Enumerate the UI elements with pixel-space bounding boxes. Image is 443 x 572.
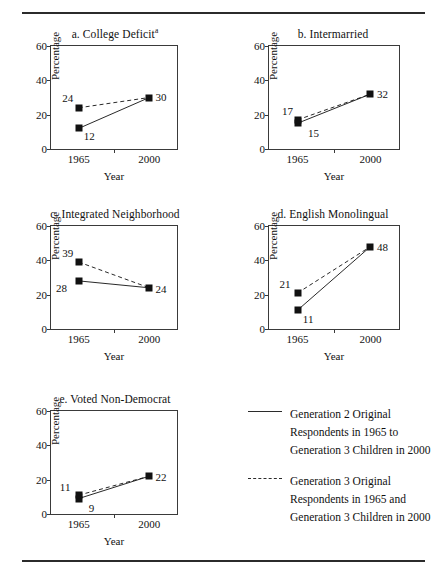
panel-a-datalabel-12: 12: [84, 131, 95, 142]
panel-c-ytick-40: 40: [36, 255, 47, 266]
panel-e-xtick-1965: 1965: [68, 519, 90, 530]
panel-d-xtick-1965: 1965: [287, 334, 309, 345]
panel-a-x-axis-label: Year: [51, 170, 177, 182]
panel-e-title-text: e. Voted Non-Democrat: [59, 393, 170, 405]
panel-b-datalabel-17: 17: [282, 106, 293, 117]
panel-a-ytick-40: 40: [36, 75, 47, 86]
panel-b-title: b. Intermarried: [228, 26, 438, 40]
chart-legend: Generation 2 Original Respondents in 196…: [248, 404, 438, 538]
panel-e-xtick-2000: 2000: [138, 519, 160, 530]
panel-d-x-axis-label: Year: [269, 350, 399, 362]
legend-entry-generation-2-label: Generation 2 Original Respondents in 196…: [290, 408, 431, 456]
panel-d-ytick-60: 60: [254, 221, 265, 232]
panel-b-ytick-40: 40: [254, 75, 265, 86]
panel-c-plot-area: Percentage 0 20 40 60 1965 2000 Year 39 …: [50, 225, 178, 330]
panel-b-x-axis-label: Year: [269, 170, 399, 182]
panel-e-title: e. Voted Non-Democrat: [10, 391, 220, 405]
panel-college-deficit: a. College Deficita Percentage 0 20 40 6…: [10, 26, 220, 196]
panel-b-plot-area: Percentage 0 20 40 60 1965 2000 Year 17 …: [268, 45, 400, 150]
panel-a-title: a. College Deficita: [10, 26, 220, 40]
panel-a-marker-1965-solid: [75, 125, 82, 132]
panel-d-marker-1965-solid: [294, 307, 301, 314]
panel-b-ytick-20: 20: [254, 109, 265, 120]
panel-c-title-text: c. Integrated Neighborhood: [50, 208, 179, 220]
panel-integrated-neighborhood: c. Integrated Neighborhood Percentage 0 …: [10, 206, 220, 376]
panel-c-title: c. Integrated Neighborhood: [10, 206, 220, 220]
legend-entry-generation-2: Generation 2 Original Respondents in 196…: [248, 404, 438, 458]
panel-d-title-text: d. English Monolingual: [277, 208, 388, 220]
panel-a-ytick-20: 20: [36, 109, 47, 120]
panel-b-marker-1965-dashed: [294, 116, 301, 123]
panel-b-title-text: b. Intermarried: [298, 28, 368, 40]
panel-e-plot-area: Percentage 0 20 40 60 1965 2000 Year 11 …: [50, 410, 178, 515]
panel-english-monolingual: d. English Monolingual Percentage 0 20 4…: [228, 206, 438, 376]
panel-d-marker-1965-dashed: [294, 289, 301, 296]
panel-c-x-axis-label: Year: [51, 350, 177, 362]
legend-dashed-line-icon: [248, 478, 282, 479]
panel-d-ytick-40: 40: [254, 255, 265, 266]
panel-a-title-text: a. College Deficit: [72, 28, 155, 40]
panel-a-marker-2000: [146, 94, 153, 101]
panel-voted-non-democrat: e. Voted Non-Democrat Percentage 0 20 40…: [10, 391, 220, 561]
panel-d-datalabel-11: 11: [303, 314, 314, 325]
panel-c-datalabel-28: 28: [56, 283, 67, 294]
panel-c-datalabel-39: 39: [62, 248, 73, 259]
panel-b-xtick-1965: 1965: [287, 154, 309, 165]
panel-d-marker-2000: [367, 243, 374, 250]
panel-c-series-lines: [51, 226, 177, 329]
legend-solid-line-icon: [248, 411, 282, 412]
panel-intermarried: b. Intermarried Percentage 0 20 40 60 19…: [228, 26, 438, 196]
panel-a-xtick-2000: 2000: [138, 154, 160, 165]
panel-e-ytick-0: 0: [42, 509, 48, 520]
panel-d-ytick-0: 0: [260, 324, 266, 335]
panel-b-marker-2000: [367, 91, 374, 98]
panel-c-ytick-20: 20: [36, 289, 47, 300]
panel-e-marker-2000: [146, 473, 153, 480]
panel-b-ytick-60: 60: [254, 41, 265, 52]
panel-b-datalabel-32: 32: [377, 89, 388, 100]
panel-a-marker-1965-dashed: [75, 104, 82, 111]
panel-b-datalabel-15: 15: [308, 128, 319, 139]
panel-c-ytick-0: 0: [42, 324, 48, 335]
panel-d-datalabel-48: 48: [377, 242, 388, 253]
panel-e-ytick-20: 20: [36, 474, 47, 485]
panel-e-series-lines: [51, 411, 177, 514]
panel-d-ytick-20: 20: [254, 289, 265, 300]
panel-e-ytick-40: 40: [36, 440, 47, 451]
panel-a-title-superscript: a: [155, 26, 158, 35]
panel-d-title: d. English Monolingual: [228, 206, 438, 220]
legend-entry-generation-3: Generation 3 Original Respondents in 196…: [248, 471, 438, 525]
panel-a-ytick-60: 60: [36, 41, 47, 52]
panel-a-ytick-0: 0: [42, 144, 48, 155]
panel-d-datalabel-21: 21: [279, 279, 290, 290]
panel-a-datalabel-24: 24: [62, 93, 73, 104]
panel-d-plot-area: Percentage 0 20 40 60 1965 2000 Year 21 …: [268, 225, 400, 330]
panel-e-datalabel-11: 11: [60, 482, 71, 493]
panel-e-datalabel-22: 22: [156, 472, 167, 483]
panel-c-xtick-1965: 1965: [68, 334, 90, 345]
panel-c-ytick-60: 60: [36, 221, 47, 232]
panel-c-xtick-2000: 2000: [138, 334, 160, 345]
panel-d-xtick-2000: 2000: [359, 334, 381, 345]
panel-e-x-axis-label: Year: [51, 535, 177, 547]
panel-c-marker-1965-solid: [75, 277, 82, 284]
panel-a-xtick-1965: 1965: [68, 154, 90, 165]
legend-entry-generation-3-label: Generation 3 Original Respondents in 196…: [290, 475, 431, 523]
panel-b-ytick-0: 0: [260, 144, 266, 155]
panel-e-marker-1965-dashed: [75, 492, 82, 499]
panel-a-datalabel-30: 30: [156, 92, 167, 103]
panel-c-datalabel-24: 24: [156, 284, 167, 295]
panel-e-datalabel-9: 9: [89, 503, 95, 514]
top-divider-rule: [22, 12, 425, 14]
panel-c-marker-1965-dashed: [75, 259, 82, 266]
panel-c-marker-2000: [146, 284, 153, 291]
panel-a-plot-area: Percentage 0 20 40 60 1965 2000 Year 24 …: [50, 45, 178, 150]
panel-e-ytick-60: 60: [36, 406, 47, 417]
panel-b-xtick-2000: 2000: [359, 154, 381, 165]
